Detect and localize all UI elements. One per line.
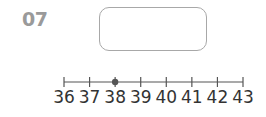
tick-label: 41 xyxy=(181,87,203,107)
tick-label: 42 xyxy=(207,87,229,107)
tick-label: 37 xyxy=(79,87,101,107)
marked-point xyxy=(112,79,118,85)
number-line: 3637383940414243 xyxy=(0,0,266,117)
tick-label: 36 xyxy=(53,87,75,107)
tick-label: 38 xyxy=(104,87,126,107)
tick-label: 39 xyxy=(130,87,152,107)
tick-label: 43 xyxy=(232,87,254,107)
tick-label: 40 xyxy=(155,87,177,107)
